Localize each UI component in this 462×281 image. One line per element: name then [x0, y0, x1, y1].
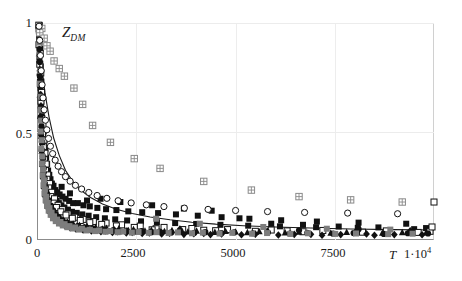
figure-container: 1 0.5 0 0 2500 5000 7500 ZDM T 1·104 [0, 0, 462, 281]
data-point [157, 165, 163, 171]
data-point [260, 224, 266, 230]
data-point [217, 230, 223, 236]
data-point [425, 230, 431, 236]
data-point [275, 231, 282, 239]
data-point [387, 227, 393, 233]
data-point [61, 73, 67, 79]
data-point [113, 207, 119, 213]
data-point [37, 59, 43, 65]
data-point [87, 203, 93, 209]
data-point [67, 178, 73, 184]
data-point [41, 107, 47, 113]
data-point [75, 200, 81, 206]
data-point [296, 227, 302, 233]
data-point [399, 229, 406, 235]
data-point [131, 155, 137, 161]
data-point [125, 208, 131, 214]
data-point [39, 161, 45, 167]
data-point [40, 166, 46, 172]
y-tick-label-1: 1 [0, 15, 32, 31]
data-point [129, 230, 135, 236]
x-tick-label-0: 0 [2, 246, 72, 261]
data-point [77, 217, 83, 223]
data-point [181, 205, 187, 211]
data-point [44, 127, 50, 133]
data-point [343, 229, 350, 235]
data-point [92, 228, 98, 234]
data-point [69, 215, 75, 221]
y-axis-label-subscript: DM [70, 33, 85, 43]
data-point [287, 231, 293, 237]
data-point [52, 157, 58, 163]
data-point [40, 95, 46, 101]
data-point [238, 231, 245, 239]
data-point [173, 211, 179, 217]
data-point [332, 231, 338, 237]
data-point [229, 230, 235, 236]
data-point [371, 231, 378, 239]
data-point [139, 209, 145, 215]
data-point [356, 220, 362, 226]
data-point [70, 225, 76, 231]
data-point [51, 58, 57, 64]
x-axis-max-exponent: 4 [427, 245, 431, 255]
data-point [161, 203, 167, 209]
data-point [154, 229, 160, 235]
data-point [63, 212, 69, 218]
data-point [155, 210, 161, 216]
series-grey-crossed-square [37, 25, 406, 205]
x-axis-max-label: 1·104 [404, 245, 431, 262]
data-point [410, 231, 416, 237]
x-axis-max-mantissa: 1·10 [404, 247, 427, 261]
data-point [264, 230, 270, 236]
data-point [347, 197, 353, 203]
data-point [153, 216, 159, 222]
data-point [172, 220, 178, 226]
data-point [76, 227, 82, 233]
data-point [71, 85, 77, 91]
data-point [277, 223, 283, 229]
data-point [337, 231, 344, 239]
data-point [336, 224, 342, 230]
data-point [120, 229, 126, 235]
data-point [89, 122, 95, 128]
data-point [394, 211, 400, 217]
data-point [103, 206, 109, 212]
data-point [83, 227, 89, 233]
series-grey-filled-square [36, 29, 416, 237]
data-point [305, 230, 311, 236]
data-point [86, 189, 92, 195]
data-point [146, 230, 152, 236]
data-point [324, 226, 330, 232]
data-point [104, 195, 110, 201]
data-point [149, 202, 155, 208]
data-point [39, 82, 45, 88]
data-point [245, 223, 251, 229]
series-open-circle [36, 23, 401, 217]
data-point [166, 230, 172, 236]
data-point [50, 151, 56, 157]
y-axis-label: ZDM [62, 24, 86, 43]
data-points-layer [37, 23, 434, 240]
data-point [72, 182, 78, 188]
data-point [94, 205, 100, 211]
data-point [248, 187, 254, 193]
data-point [403, 221, 409, 227]
data-point [200, 230, 206, 236]
data-point [36, 46, 42, 52]
data-point [189, 230, 195, 236]
data-point [42, 117, 48, 123]
data-point [39, 153, 45, 159]
data-point [429, 224, 435, 230]
data-point [345, 210, 351, 216]
data-point [246, 216, 252, 222]
data-point [217, 222, 223, 228]
data-point [232, 207, 238, 213]
data-point [38, 129, 44, 135]
data-point [45, 135, 51, 141]
data-point [38, 68, 44, 74]
data-point [59, 184, 65, 190]
data-point [47, 143, 53, 149]
data-point [47, 48, 53, 54]
data-point [201, 178, 207, 184]
